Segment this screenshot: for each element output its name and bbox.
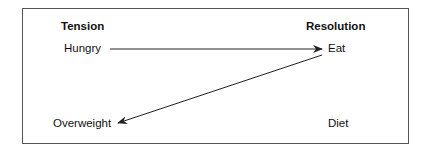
arrows-layer: [0, 0, 433, 154]
arrow-eat-to-overweight: [118, 55, 322, 123]
